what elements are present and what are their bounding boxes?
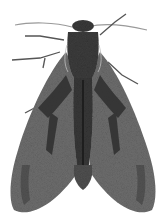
moth-illustration bbox=[0, 0, 167, 223]
